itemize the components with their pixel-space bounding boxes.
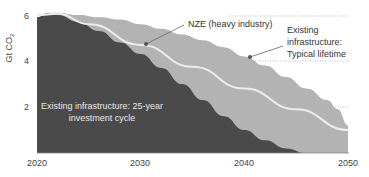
y-tick-4: 4 — [24, 56, 29, 66]
typical-lifetime-marker-dot — [248, 55, 252, 59]
nze-marker-dot — [144, 42, 148, 46]
y-axis-label: Gt CO2 — [4, 33, 15, 63]
svg-text:Typical lifetime: Typical lifetime — [287, 49, 346, 59]
emissions-chart: Gt CO2 6 4 2 2020 2030 2040 2050 NZE (he… — [0, 0, 369, 177]
svg-text:NZE (heavy industry): NZE (heavy industry) — [188, 19, 273, 29]
typical-lifetime-annotation: Existing infrastructure: Typical lifetim… — [248, 25, 346, 59]
y-tick-2: 2 — [24, 102, 29, 112]
x-tick-2040: 2040 — [234, 158, 254, 168]
svg-text:Gt CO2: Gt CO2 — [4, 33, 15, 63]
svg-text:Existing: Existing — [287, 25, 319, 35]
x-tick-2030: 2030 — [130, 158, 150, 168]
svg-text:Existing infrastructure: 25-ye: Existing infrastructure: 25-year — [41, 101, 163, 111]
svg-text:infrastructure:: infrastructure: — [287, 37, 342, 47]
y-tick-6: 6 — [24, 11, 29, 21]
x-tick-2020: 2020 — [27, 158, 47, 168]
svg-text:investment cycle: investment cycle — [69, 113, 136, 123]
x-tick-2050: 2050 — [338, 158, 358, 168]
